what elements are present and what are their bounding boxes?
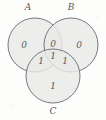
b-only-region-value: 0 <box>76 41 82 50</box>
set-label-b: B <box>68 3 75 12</box>
a-b-region-value: 0 <box>50 40 56 49</box>
a-only-region-value: 0 <box>21 41 27 50</box>
a-b-c-region-value: 1 <box>50 52 56 61</box>
b-c-region-value: 1 <box>62 57 68 66</box>
set-label-c: C <box>50 107 57 116</box>
venn-diagram-figure: A B C 0 0 0 1 1 1 1 <box>0 0 106 120</box>
a-c-region-value: 1 <box>38 57 44 66</box>
set-label-a: A <box>25 3 32 12</box>
c-only-region-value: 1 <box>50 82 56 91</box>
